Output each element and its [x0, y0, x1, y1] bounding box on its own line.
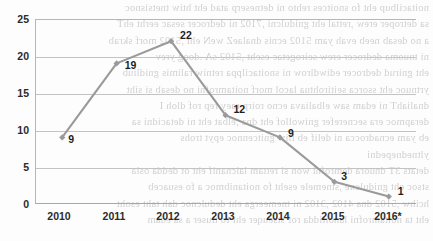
x-tick-label-2014: 2014 — [251, 210, 305, 222]
data-series — [0, 0, 433, 241]
x-tick-label-2013: 2013 — [196, 210, 250, 222]
data-point-label: 12 — [234, 103, 246, 115]
data-point-label: 3 — [341, 170, 347, 182]
series-line — [62, 41, 389, 196]
x-tick-label-2012: 2012 — [141, 210, 195, 222]
data-point-label: 19 — [125, 59, 137, 71]
data-point-label: 22 — [180, 29, 192, 41]
x-tick-label-2016: 2016* — [361, 210, 415, 222]
data-point-marker — [386, 194, 392, 200]
data-point-label: 9 — [68, 133, 74, 145]
x-tick-label-2015: 2015 — [306, 210, 360, 222]
x-tick-label-2010: 2010 — [32, 210, 86, 222]
data-point-label: 9 — [288, 127, 294, 139]
chart-screenshot: noitacilbup eht fo snoitces rehto ni det… — [0, 0, 433, 241]
x-tick-label-2011: 2011 — [87, 210, 141, 222]
data-point-label: 1 — [398, 185, 404, 197]
